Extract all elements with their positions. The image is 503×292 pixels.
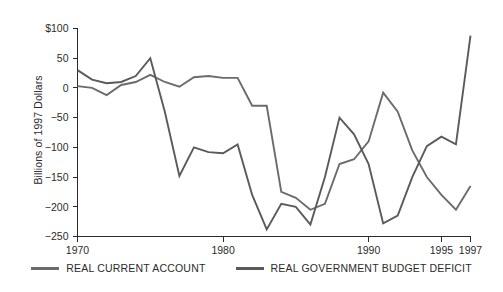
legend-swatch-budget-deficit (236, 267, 264, 270)
y-tick-label: $100 (45, 22, 69, 34)
y-tick-label: −200 (45, 201, 69, 213)
data-series-group (78, 36, 471, 230)
series-line-real-government-budget-deficit (78, 36, 471, 230)
chart-legend: REAL CURRENT ACCOUNT REAL GOVERNMENT BUD… (0, 262, 503, 274)
chart-figure: Billions of 1997 Dollars −250−200−150−10… (0, 0, 503, 292)
x-tick-label: 1995 (430, 244, 454, 256)
legend-label-current-account: REAL CURRENT ACCOUNT (66, 262, 205, 274)
series-line-real-current-account (78, 75, 471, 210)
x-tick-label: 1970 (66, 244, 90, 256)
x-tick-label: 1980 (211, 244, 235, 256)
legend-swatch-current-account (31, 267, 59, 270)
y-tick-label: 50 (57, 52, 69, 64)
legend-item-real-current-account: REAL CURRENT ACCOUNT (31, 262, 205, 274)
axis-frame (78, 29, 471, 237)
y-tick-label: −100 (45, 141, 69, 153)
y-tick-label: 0 (63, 82, 69, 94)
y-axis-ticks: −250−200−150−100−50050$100 (45, 22, 78, 242)
legend-label-budget-deficit: REAL GOVERNMENT BUDGET DEFICIT (271, 262, 472, 274)
y-tick-label: −250 (45, 230, 69, 242)
x-axis-ticks: 19701980199019951997 (66, 237, 483, 256)
x-tick-label: 1990 (357, 244, 381, 256)
y-tick-label: −150 (45, 171, 69, 183)
legend-item-real-government-budget-deficit: REAL GOVERNMENT BUDGET DEFICIT (236, 262, 472, 274)
line-chart-plot: −250−200−150−100−50050$100 1970198019901… (0, 0, 503, 292)
y-tick-label: −50 (51, 111, 69, 123)
x-tick-label: 1997 (459, 244, 483, 256)
